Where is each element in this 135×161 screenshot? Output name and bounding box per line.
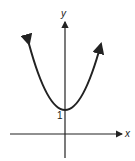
x-axis-label: x (125, 128, 130, 139)
y-axis-label: y (61, 8, 66, 19)
parabola-graph (0, 0, 135, 161)
y-intercept-label: 1 (57, 110, 63, 121)
